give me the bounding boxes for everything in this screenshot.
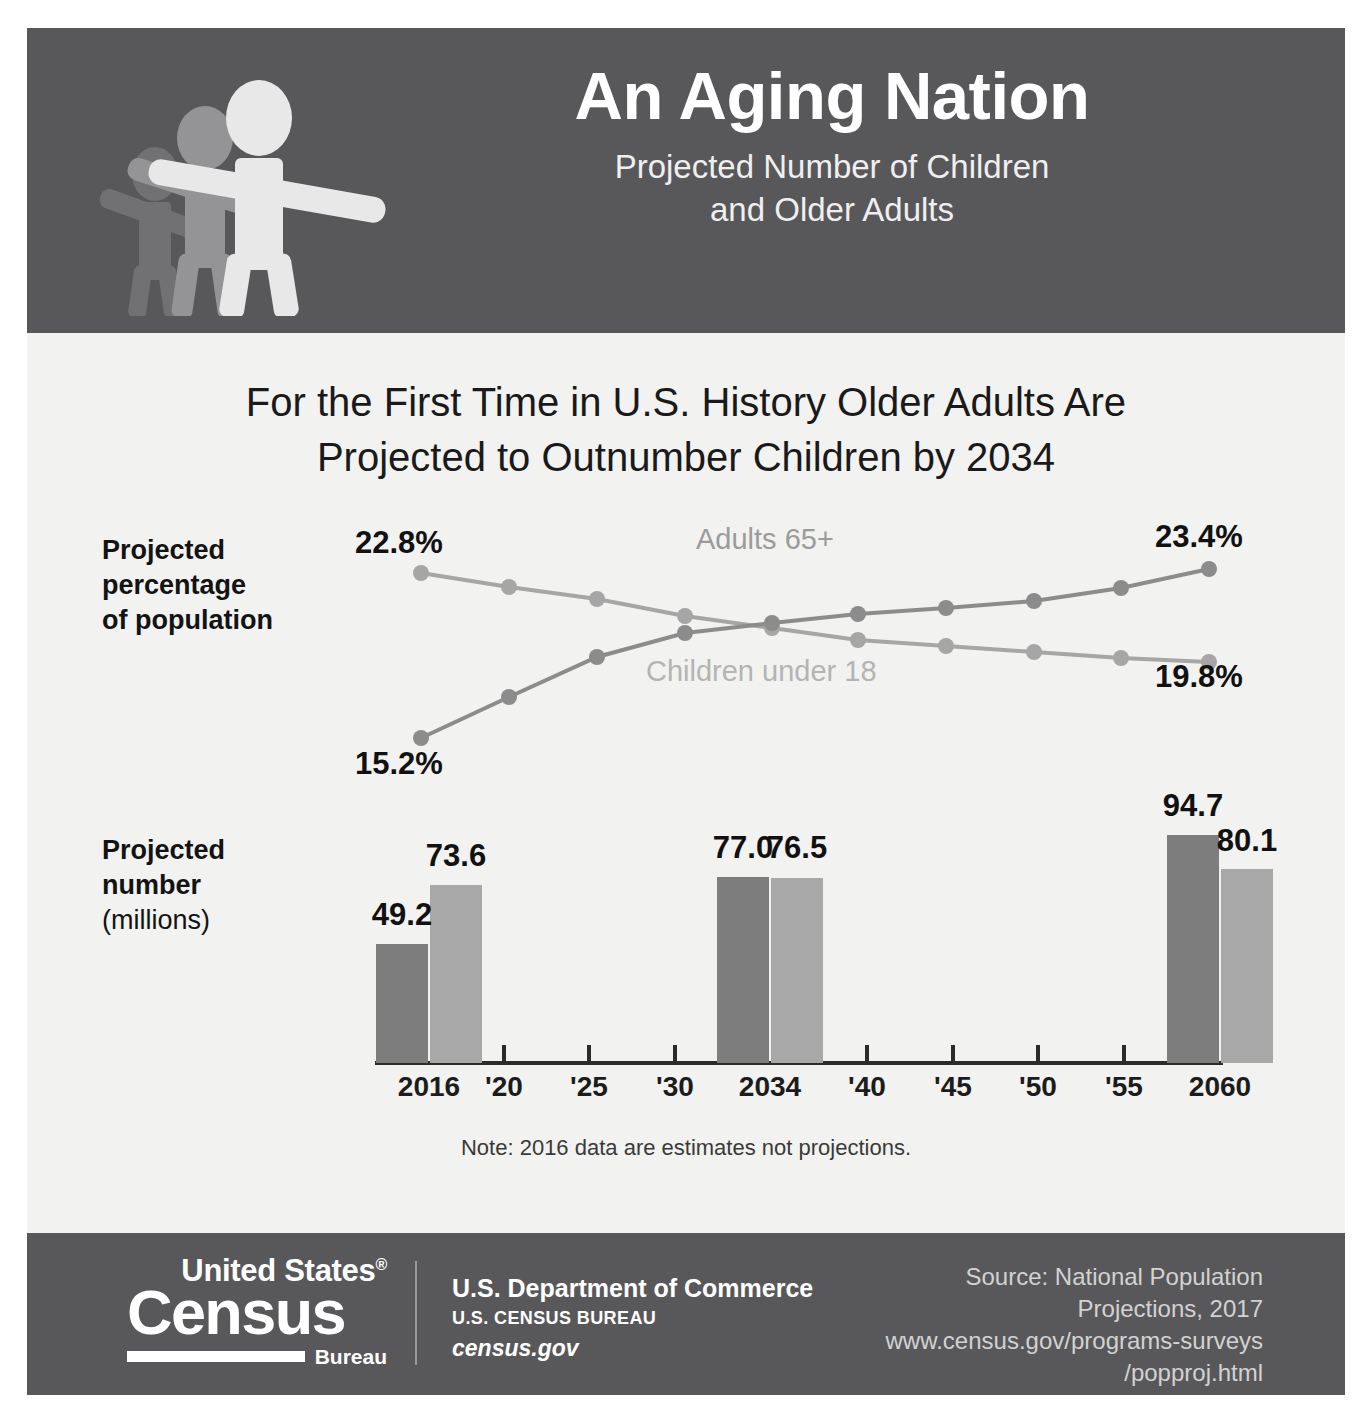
poster-subtitle-line-2: and Older Adults bbox=[367, 189, 1297, 232]
poster-title: An Aging Nation bbox=[367, 60, 1297, 132]
bureau-name: U.S. CENSUS BUREAU bbox=[452, 1308, 813, 1329]
x-tick-label: '20 bbox=[485, 1071, 523, 1103]
logo-bureau-word: Bureau bbox=[315, 1346, 387, 1367]
chart-note: Note: 2016 data are estimates not projec… bbox=[27, 1135, 1345, 1161]
department-info: U.S. Department of Commerce U.S. CENSUS … bbox=[452, 1273, 813, 1362]
source-line-1: Source: National Population bbox=[886, 1261, 1263, 1293]
source-line-2: Projections, 2017 bbox=[886, 1293, 1263, 1325]
infographic-poster: An Aging Nation Projected Number of Chil… bbox=[27, 28, 1345, 1395]
series-label-children: Children under 18 bbox=[646, 655, 877, 688]
x-tick-label: 2016 bbox=[398, 1071, 460, 1103]
x-tick-label: '40 bbox=[848, 1071, 886, 1103]
department-name: U.S. Department of Commerce bbox=[452, 1273, 813, 1304]
series-line-adults bbox=[421, 569, 1209, 738]
x-tick-label: '30 bbox=[656, 1071, 694, 1103]
source-line-3[interactable]: www.census.gov/programs-surveys bbox=[886, 1325, 1263, 1357]
bar-value-label: 94.7 bbox=[1163, 788, 1223, 824]
x-tick-label: 2034 bbox=[739, 1071, 801, 1103]
x-tick-label: '25 bbox=[570, 1071, 608, 1103]
bar-adults-2034 bbox=[717, 877, 769, 1063]
value-label-adults-start: 15.2% bbox=[355, 746, 443, 782]
bar-chart: Projected number (millions) bbox=[27, 813, 1345, 1173]
x-tick-label: '50 bbox=[1019, 1071, 1057, 1103]
bar-adults-2016 bbox=[376, 944, 428, 1063]
bar-value-label: 77.0 bbox=[713, 830, 773, 866]
logo-underline-bar bbox=[127, 1351, 305, 1362]
headline-line-1: For the First Time in U.S. History Older… bbox=[27, 375, 1345, 430]
poster-body: For the First Time in U.S. History Older… bbox=[27, 333, 1345, 1233]
headline-line-2: Projected to Outnumber Children by 2034 bbox=[27, 430, 1345, 485]
series-label-adults: Adults 65+ bbox=[696, 523, 834, 556]
x-tick-label: '45 bbox=[934, 1071, 972, 1103]
source-citation: Source: National Population Projections,… bbox=[886, 1261, 1263, 1390]
header-text-block: An Aging Nation Projected Number of Chil… bbox=[367, 60, 1297, 232]
poster-header: An Aging Nation Projected Number of Chil… bbox=[27, 28, 1345, 333]
x-tick-label: 2060 bbox=[1189, 1071, 1251, 1103]
poster-subtitle: Projected Number of Children and Older A… bbox=[367, 146, 1297, 232]
logo-census-word: Census bbox=[127, 1283, 387, 1343]
value-label-adults-end: 23.4% bbox=[1155, 519, 1243, 555]
bar-value-label: 80.1 bbox=[1217, 823, 1277, 859]
bar-children-2016 bbox=[430, 885, 482, 1063]
value-label-children-start: 22.8% bbox=[355, 525, 443, 561]
value-label-children-end: 19.8% bbox=[1155, 659, 1243, 695]
poster-subtitle-line-1: Projected Number of Children bbox=[367, 146, 1297, 189]
bar-children-2060 bbox=[1221, 869, 1273, 1063]
bar-value-label: 49.2 bbox=[372, 897, 432, 933]
bar-value-label: 76.5 bbox=[767, 830, 827, 866]
x-tick-label: '55 bbox=[1105, 1071, 1143, 1103]
bar-value-label: 73.6 bbox=[426, 838, 486, 874]
census-gov-link[interactable]: census.gov bbox=[452, 1335, 813, 1362]
source-line-4[interactable]: /popproj.html bbox=[886, 1357, 1263, 1389]
three-people-icon bbox=[87, 66, 387, 316]
census-bureau-logo: United States® Census Bureau bbox=[127, 1255, 387, 1367]
page-headline: For the First Time in U.S. History Older… bbox=[27, 375, 1345, 485]
footer-divider bbox=[415, 1261, 417, 1365]
bar-adults-2060 bbox=[1167, 835, 1219, 1063]
bar-chart-plot bbox=[27, 813, 1345, 1113]
poster-footer: United States® Census Bureau U.S. Depart… bbox=[27, 1233, 1345, 1395]
line-chart: Projected percentage of population bbox=[27, 511, 1345, 811]
registered-mark-icon: ® bbox=[376, 1256, 388, 1273]
bar-children-2034 bbox=[771, 878, 823, 1063]
logo-bottom-row: Bureau bbox=[127, 1346, 387, 1367]
